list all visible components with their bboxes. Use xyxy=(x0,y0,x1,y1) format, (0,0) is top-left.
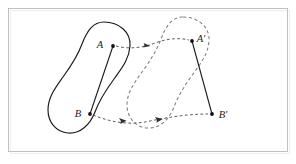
label-a: A xyxy=(96,39,104,50)
label-a-prime: A′ xyxy=(196,33,206,44)
point-b xyxy=(88,112,92,116)
point-a xyxy=(111,44,115,48)
point-a-prime xyxy=(190,39,194,43)
translation-diagram: A B A′ B′ xyxy=(0,0,296,164)
figure-container: A B A′ B′ xyxy=(0,0,296,164)
label-b: B xyxy=(75,108,82,119)
figure-frame xyxy=(9,9,288,152)
label-b-prime: B′ xyxy=(219,109,228,120)
point-b-prime xyxy=(210,112,214,116)
